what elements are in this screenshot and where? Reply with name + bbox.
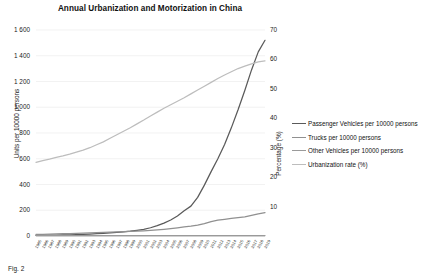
legend-swatch-icon-2 xyxy=(292,150,306,151)
series-line-3 xyxy=(36,61,265,163)
legend-label-3: Urbanization rate (%) xyxy=(308,161,368,168)
series-line-1 xyxy=(36,213,265,235)
legend-label-0: Passenger Vehicles per 10000 persons xyxy=(308,120,418,127)
legend-swatch-icon-3 xyxy=(292,164,306,165)
figure-caption: Fig. 2 xyxy=(8,265,24,272)
legend-item-2[interactable]: Other Vehicles per 10000 persons xyxy=(292,144,442,158)
legend-item-0[interactable]: Passenger Vehicles per 10000 persons xyxy=(292,117,442,131)
legend-swatch-icon-1 xyxy=(292,137,306,138)
legend-label-1: Trucks per 10000 persons xyxy=(308,134,381,141)
series-lines xyxy=(36,40,265,235)
chart-legend: Passenger Vehicles per 10000 personsTruc… xyxy=(292,117,442,171)
legend-label-2: Other Vehicles per 10000 persons xyxy=(308,147,403,154)
gridlines xyxy=(36,30,265,236)
figure-container: Annual Urbanization and Motorization in … xyxy=(0,0,444,273)
series-line-0 xyxy=(36,40,265,235)
legend-swatch-icon-0 xyxy=(292,123,306,124)
legend-item-3[interactable]: Urbanization rate (%) xyxy=(292,158,442,172)
legend-item-1[interactable]: Trucks per 10000 persons xyxy=(292,131,442,145)
